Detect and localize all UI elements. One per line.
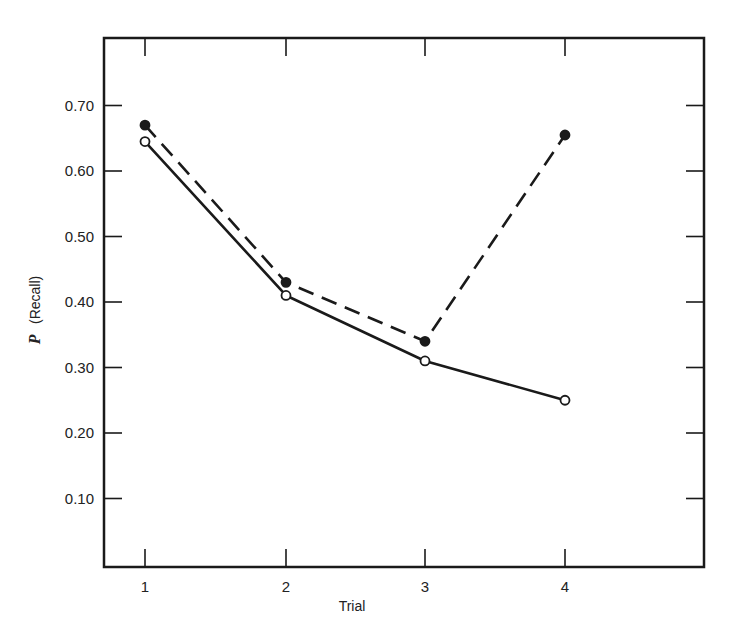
filled-circle-marker bbox=[561, 130, 570, 139]
y-tick-label: 0.30 bbox=[65, 359, 94, 376]
y-tick-label: 0.20 bbox=[65, 424, 94, 441]
series-line bbox=[145, 125, 565, 341]
series-open-solid bbox=[141, 137, 570, 405]
open-circle-marker bbox=[282, 291, 291, 300]
filled-circle-marker bbox=[141, 121, 150, 130]
x-tick-label: 4 bbox=[561, 578, 569, 595]
open-circle-marker bbox=[141, 137, 150, 146]
y-tick-label: 0.70 bbox=[65, 97, 94, 114]
line-chart: 0.100.200.300.400.500.600.70 1234 Trial … bbox=[0, 0, 730, 642]
x-tick-label: 1 bbox=[141, 578, 149, 595]
y-tick-label: 0.50 bbox=[65, 228, 94, 245]
x-tick-label: 2 bbox=[282, 578, 290, 595]
y-axis-title: P (Recall) bbox=[26, 276, 43, 345]
y-tick-label: 0.10 bbox=[65, 490, 94, 507]
x-axis-ticks: 1234 bbox=[141, 38, 569, 595]
filled-circle-marker bbox=[421, 337, 430, 346]
x-tick-label: 3 bbox=[421, 578, 429, 595]
series-line bbox=[145, 142, 565, 401]
open-circle-marker bbox=[421, 356, 430, 365]
series-layer bbox=[141, 121, 570, 405]
filled-circle-marker bbox=[282, 278, 291, 287]
y-tick-label: 0.60 bbox=[65, 162, 94, 179]
x-axis-title: Trial bbox=[339, 598, 366, 614]
y-tick-label: 0.40 bbox=[65, 293, 94, 310]
series-filled-dashed bbox=[141, 121, 570, 346]
open-circle-marker bbox=[561, 396, 570, 405]
y-axis-symbol: P bbox=[26, 334, 43, 345]
y-axis-text: (Recall) bbox=[27, 276, 43, 324]
plot-frame bbox=[104, 38, 704, 567]
